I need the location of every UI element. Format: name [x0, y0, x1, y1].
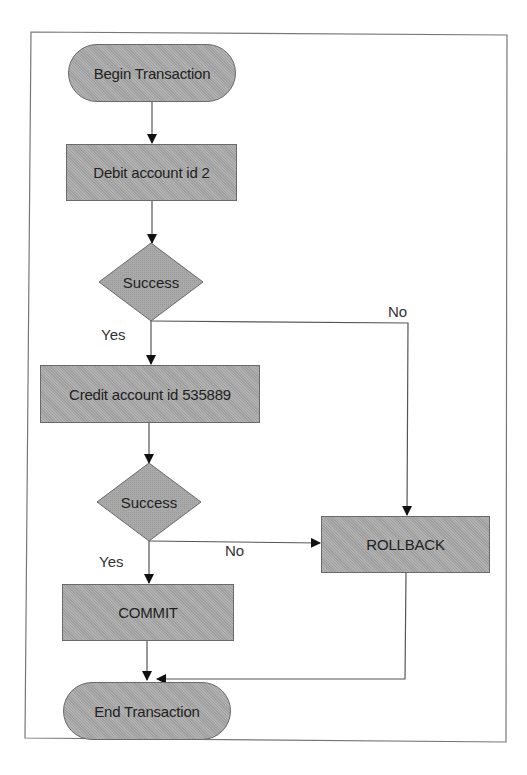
decision1-label: Success	[123, 274, 180, 291]
credit-account-label: Credit account id 535889	[69, 386, 231, 403]
decision2-label: Success	[121, 494, 178, 511]
decision1-node: Success	[99, 243, 203, 321]
commit-node: COMMIT	[62, 584, 234, 641]
rollback-node: ROLLBACK	[321, 516, 490, 573]
decision2-node: Success	[97, 463, 201, 541]
begin-transaction-label: Begin Transaction	[94, 65, 211, 82]
begin-transaction-node: Begin Transaction	[68, 44, 236, 102]
rollback-label: ROLLBACK	[366, 536, 444, 553]
decision1-no-label: No	[388, 303, 407, 320]
end-transaction-node: End Transaction	[63, 682, 231, 740]
debit-account-label: Debit account id 2	[93, 164, 209, 181]
decision2-yes-label: Yes	[99, 553, 123, 570]
credit-account-node: Credit account id 535889	[40, 365, 260, 423]
commit-label: COMMIT	[118, 604, 178, 621]
end-transaction-label: End Transaction	[94, 703, 199, 720]
debit-account-node: Debit account id 2	[66, 144, 237, 201]
decision1-yes-label: Yes	[101, 326, 125, 343]
decision2-no-label: No	[225, 542, 244, 559]
flowchart-frame: Begin Transaction Debit account id 2 Suc…	[0, 0, 527, 775]
